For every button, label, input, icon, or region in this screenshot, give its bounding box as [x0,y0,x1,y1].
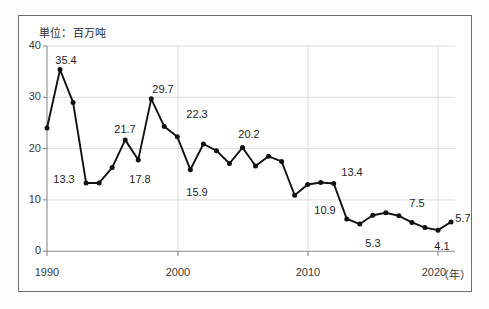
data-label-35-4: 35.4 [55,54,76,66]
data-point-2020 [436,228,441,233]
data-label-17-8: 17.8 [129,173,150,185]
y-tick-label-40: 40 [19,39,41,51]
data-point-1992 [71,100,76,105]
data-point-2010 [305,182,310,187]
data-label-15-9: 15.9 [186,186,207,198]
data-label-13-4: 13.4 [341,166,362,178]
data-point-1991 [58,67,63,72]
data-point-1997 [136,157,141,162]
data-point-1999 [162,124,167,129]
data-point-1990 [45,126,50,131]
y-tick-label-30: 30 [19,90,41,102]
unit-note: 単位：百万吨 [39,24,106,40]
data-point-2015 [370,213,375,218]
chart-plot-area [0,0,489,309]
data-label-29-7: 29.7 [152,83,173,95]
y-tick-label-0: 0 [19,244,41,256]
data-label-5-7: 5.7 [455,212,470,224]
data-point-2016 [383,210,388,215]
data-label-10-9: 10.9 [314,204,335,216]
data-point-2011 [318,180,323,185]
data-point-2002 [201,141,206,146]
data-point-2007 [266,154,271,159]
y-tick-label-20: 20 [19,142,41,154]
data-label-20-2: 20.2 [238,128,259,140]
data-point-2019 [422,225,427,230]
data-point-2009 [292,193,297,198]
x-tick-label-2010: 2010 [288,266,328,278]
data-point-1994 [97,180,102,185]
data-point-2017 [396,213,401,218]
data-point-2008 [279,159,284,164]
data-point-2005 [240,145,245,150]
data-point-2004 [227,161,232,166]
data-label-22-3: 22.3 [186,108,207,120]
data-point-1998 [149,96,154,101]
data-point-1996 [123,137,128,142]
data-label-4-1: 4.1 [434,240,449,252]
data-point-1995 [110,165,115,170]
x-tick-marks [47,251,438,256]
x-tick-label-2000: 2000 [158,266,198,278]
data-point-2018 [409,220,414,225]
data-point-2014 [357,222,362,227]
data-label-21-7: 21.7 [114,123,135,135]
y-tick-label-10: 10 [19,193,41,205]
chart-figure: 単位：百万吨 40 30 20 10 0 1990 2000 2010 2020… [0,0,489,309]
x-axis-unit-label: （年） [438,266,471,282]
data-label-5-3: 5.3 [365,237,380,249]
data-point-2000 [175,134,180,139]
data-point-2013 [344,216,349,221]
data-label-13-3: 13.3 [53,173,74,185]
horizontal-gridlines [47,46,455,200]
data-series-markers [45,67,454,233]
data-series-line [47,70,451,231]
y-tick-marks [43,46,47,251]
data-label-7-5: 7.5 [409,197,424,209]
data-point-2001 [188,167,193,172]
data-point-2012 [331,181,336,186]
data-point-2006 [253,164,258,169]
data-point-2003 [214,148,219,153]
data-point-2021 [449,219,454,224]
data-point-1993 [84,180,89,185]
x-tick-label-1990: 1990 [27,266,67,278]
